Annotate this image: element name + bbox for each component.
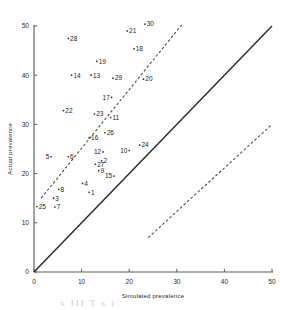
- bleed-text: x III T s i: [60, 298, 116, 308]
- bleed-through-layer: x III T s i: [0, 0, 287, 310]
- scatter-plot-figure: 0102030405001020304050Simulated prevalen…: [0, 0, 287, 310]
